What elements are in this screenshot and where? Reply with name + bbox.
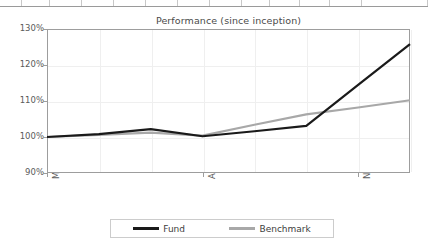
spreadsheet-cell[interactable] bbox=[330, 0, 362, 7]
spreadsheet-cell[interactable] bbox=[82, 0, 114, 7]
legend-line-swatch-icon bbox=[229, 227, 255, 230]
spreadsheet-cell[interactable] bbox=[114, 0, 146, 7]
legend-line-swatch-icon bbox=[133, 227, 159, 230]
y-axis-tick-label: 120% bbox=[4, 59, 44, 69]
y-axis-tick-label: 130% bbox=[4, 23, 44, 33]
spreadsheet-cell[interactable] bbox=[210, 0, 242, 7]
y-axis-tick-label: 110% bbox=[4, 95, 44, 105]
spreadsheet-cell[interactable] bbox=[242, 0, 270, 7]
legend-entry[interactable]: Benchmark bbox=[229, 224, 310, 234]
y-axis-tick-label: 90% bbox=[4, 167, 44, 177]
x-axis-tick bbox=[358, 173, 359, 177]
series-line-benchmark bbox=[47, 100, 410, 137]
legend-entry[interactable]: Fund bbox=[133, 224, 185, 234]
x-axis-tick bbox=[203, 173, 204, 177]
x-axis-tick bbox=[47, 173, 48, 177]
y-axis-tick bbox=[43, 65, 47, 66]
y-axis-tick bbox=[43, 29, 47, 30]
spreadsheet-cell[interactable] bbox=[0, 0, 22, 7]
chart-title: Performance (since inception) bbox=[47, 15, 410, 26]
spreadsheet-cell[interactable] bbox=[146, 0, 178, 7]
spreadsheet-cell[interactable] bbox=[178, 0, 210, 7]
y-axis-tick bbox=[43, 101, 47, 102]
legend-label: Benchmark bbox=[259, 224, 310, 234]
spreadsheet-cell[interactable] bbox=[362, 0, 428, 7]
spreadsheet-cell[interactable] bbox=[22, 0, 50, 7]
spreadsheet-row-strip bbox=[0, 0, 428, 7]
spreadsheet-cell[interactable] bbox=[270, 0, 300, 7]
gridline-vertical bbox=[411, 30, 412, 172]
chart-legend: FundBenchmark bbox=[110, 219, 334, 238]
series-line-fund bbox=[47, 44, 410, 137]
y-axis-tick-label: 100% bbox=[4, 131, 44, 141]
legend-label: Fund bbox=[163, 224, 185, 234]
series-layer bbox=[47, 29, 410, 173]
chart-container: Performance (since inception) 130%120%11… bbox=[0, 8, 427, 241]
y-axis-tick bbox=[43, 137, 47, 138]
spreadsheet-cell[interactable] bbox=[300, 0, 330, 7]
spreadsheet-cell[interactable] bbox=[50, 0, 82, 7]
